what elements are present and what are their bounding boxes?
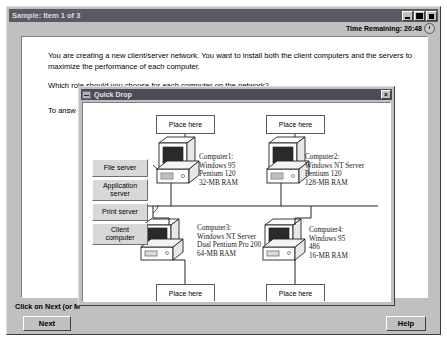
computer-icon-4 <box>263 218 311 277</box>
computer1-specs: Computer1: Windows 95 Pentium 120 32-MB … <box>199 153 238 187</box>
quick-drop-close-button[interactable]: × <box>381 90 391 99</box>
computer2-os: Windows NT Server <box>305 162 364 171</box>
application-title: Sample: Item 1 of 3 <box>9 11 80 20</box>
computer3-ram: 64-MB RAM <box>197 250 261 259</box>
drop-target-computer3[interactable]: Place here <box>156 284 215 302</box>
computer3-name: Computer3: <box>197 224 261 233</box>
computer4-specs: Computer4: Windows 95 486 16-MB RAM <box>309 226 348 260</box>
computer1-ram: 32-MB RAM <box>199 179 238 188</box>
computer-icon-1 <box>157 137 199 195</box>
computer4-cpu: 486 <box>309 243 348 252</box>
system-menu-icon[interactable] <box>82 91 91 99</box>
drop-target-computer4[interactable]: Place here <box>266 284 325 302</box>
close-button[interactable]: × <box>426 11 437 21</box>
window-controls: × <box>402 11 438 21</box>
computer2-name: Computer2: <box>305 153 364 162</box>
time-remaining-label: Time Remaining: 20:48 <box>346 25 424 32</box>
computer4-ram: 16-MB RAM <box>309 252 348 261</box>
next-button[interactable]: Next <box>23 316 71 331</box>
computer3-cpu: Dual Pentium Pro 200 <box>197 241 261 250</box>
help-button[interactable]: Help <box>386 316 426 331</box>
computer1-name: Computer1: <box>199 153 238 162</box>
quick-drop-title: Quick Drop <box>91 91 132 98</box>
computer2-specs: Computer2: Windows NT Server Pentium 120… <box>305 153 364 187</box>
maximize-button[interactable] <box>414 11 425 21</box>
clock-icon <box>424 23 435 34</box>
computer2-cpu: Pentium 120 <box>305 170 364 179</box>
bottom-button-bar: Next Help <box>9 313 438 333</box>
computer4-name: Computer4: <box>309 226 348 235</box>
time-remaining-bar: Time Remaining: 20:48 <box>9 23 438 34</box>
option-file-server[interactable]: File server <box>92 159 148 177</box>
option-application-server[interactable]: Applicationserver <box>92 179 148 201</box>
computer4-os: Windows 95 <box>309 235 348 244</box>
computer1-os: Windows 95 <box>199 162 238 171</box>
application-titlebar: Sample: Item 1 of 3 × <box>9 9 438 22</box>
option-client-computer[interactable]: Clientcomputer <box>92 223 148 245</box>
computer3-specs: Computer3: Windows NT Server Dual Pentiu… <box>197 224 261 258</box>
quick-drop-client-area: File server Applicationserver Print serv… <box>82 102 391 302</box>
quick-drop-dialog: Quick Drop × <box>78 86 395 306</box>
computer3-os: Windows NT Server <box>197 233 261 242</box>
option-print-server[interactable]: Print server <box>92 203 148 221</box>
quick-drop-titlebar: Quick Drop × <box>81 89 392 100</box>
minimize-button[interactable] <box>402 11 413 21</box>
drop-target-computer1[interactable]: Place here <box>156 115 215 134</box>
computer1-cpu: Pentium 120 <box>199 170 238 179</box>
drop-target-computer2[interactable]: Place here <box>266 115 325 134</box>
computer2-ram: 128-MB RAM <box>305 179 364 188</box>
question-paragraph-1: You are creating a new client/server net… <box>48 50 418 72</box>
computer-icon-2 <box>267 137 309 195</box>
